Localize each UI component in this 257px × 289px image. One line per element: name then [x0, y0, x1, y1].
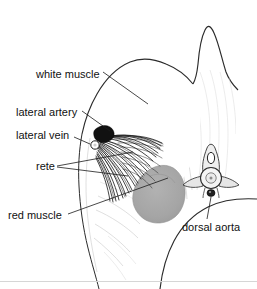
label-red-muscle: red muscle [8, 209, 62, 221]
lateral-vein-circle [91, 141, 99, 149]
vertebra-group [183, 144, 239, 198]
label-lateral-artery: lateral artery [16, 106, 78, 118]
leader-white-muscle [103, 72, 148, 104]
dorsal-aorta-lumen [209, 191, 211, 193]
label-dorsal-aorta: dorsal aorta [182, 221, 241, 233]
label-white-muscle: white muscle [35, 68, 100, 80]
white-muscle-shading [108, 86, 192, 154]
label-lateral-vein: lateral vein [16, 129, 69, 141]
centrum-core [210, 177, 213, 180]
label-rete: rete [36, 160, 55, 172]
leader-lateral-artery [82, 111, 110, 131]
figure-container: white muscle lateral artery lateral vein… [0, 0, 257, 289]
dorsal-aorta-vessel [207, 190, 215, 197]
lateral-artery-blob [94, 126, 115, 143]
leader-rete-upper [57, 152, 133, 166]
anatomy-diagram: white muscle lateral artery lateral vein… [0, 0, 257, 289]
leader-dorsal-aorta [207, 197, 211, 219]
neural-canal [207, 152, 214, 163]
dorsal-fin-ridge-path [193, 26, 238, 90]
inner-flank-line [86, 138, 97, 272]
leader-lateral-vein [74, 137, 90, 144]
